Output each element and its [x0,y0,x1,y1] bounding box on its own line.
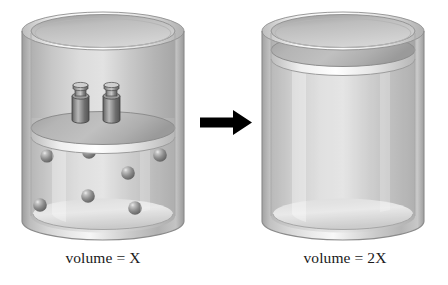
caption-volume-2x: volume = 2X [242,249,448,267]
cylinder-right [262,12,424,240]
weight-right [103,82,120,123]
cylinder-right-glass-highlight-2 [380,58,390,212]
cylinder-left [22,12,184,240]
weight-cap-top [104,82,119,87]
weight-body [72,96,89,123]
weight-left [72,82,89,123]
gas-volume-diagram [0,0,448,285]
weight-body [103,96,120,123]
cylinder-right-glass-highlight [292,58,306,222]
weight-cap-top [73,82,88,87]
caption-volume-x: volume = X [0,249,206,267]
